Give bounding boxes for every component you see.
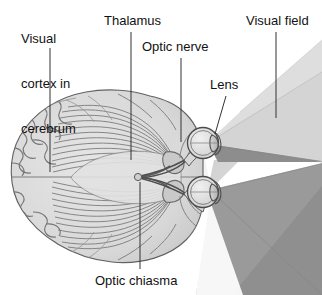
label-visual-cortex-line2: cortex in: [21, 76, 76, 91]
label-visual-field: Visual field: [246, 13, 309, 28]
visual-pathway-figure: Visual cortex in cerebrum Thalamus Optic…: [0, 0, 322, 295]
label-lens: Lens: [210, 77, 238, 92]
label-optic-chiasma: Optic chiasma: [95, 273, 177, 288]
label-optic-nerve: Optic nerve: [142, 39, 208, 54]
label-visual-cortex-line1: Visual: [21, 31, 76, 46]
label-visual-cortex-line3: cerebrum: [21, 121, 76, 136]
chiasma-center: [134, 173, 141, 180]
label-visual-cortex: Visual cortex in cerebrum: [21, 1, 76, 166]
label-thalamus: Thalamus: [104, 13, 161, 28]
